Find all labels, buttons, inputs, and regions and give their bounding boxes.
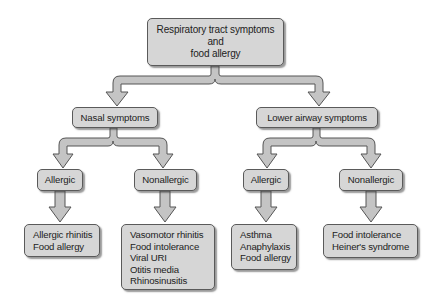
nasal-nonallergic-down-arrow bbox=[154, 191, 176, 222]
lower-airway-symptoms-node: Lower airway symptoms bbox=[256, 107, 378, 128]
nasal-symptoms-node: Nasal symptoms bbox=[72, 107, 158, 128]
root-line-2: and bbox=[207, 36, 223, 48]
leaf-item: Rhinosinusitis bbox=[130, 275, 214, 287]
lower-allergic-down-arrow bbox=[255, 191, 277, 222]
lower-airway-symptoms-label: Lower airway symptoms bbox=[267, 112, 367, 124]
leaf-item: Allergic rhinitis bbox=[33, 229, 99, 241]
leaf-item: Food intolerance bbox=[130, 241, 214, 253]
nasal-allergic-node: Allergic bbox=[37, 169, 83, 191]
leaf-item: Asthma bbox=[240, 229, 296, 241]
leaf-item: Vasomotor rhinitis bbox=[130, 229, 214, 241]
leaf-item: Viral URI bbox=[130, 252, 214, 264]
leaf-item: Otitis media bbox=[130, 264, 214, 276]
root-line-3: food allergy bbox=[191, 48, 241, 60]
root-split-arrow bbox=[106, 66, 330, 106]
leaf-item: Food allergy bbox=[240, 252, 296, 264]
nasal-symptoms-label: Nasal symptoms bbox=[81, 112, 150, 124]
nasal-split-arrow bbox=[53, 128, 173, 168]
leaf-item: Anaphylaxis bbox=[240, 241, 296, 253]
lower-nonallergic-leaf: Food intolerance Heiner's syndrome bbox=[323, 224, 418, 258]
nasal-allergic-leaf: Allergic rhinitis Food allergy bbox=[24, 224, 100, 257]
nasal-nonallergic-node: Nonallergic bbox=[134, 169, 197, 191]
lower-allergic-leaf: Asthma Anaphylaxis Food allergy bbox=[231, 224, 297, 270]
root-node: Respiratory tract symptoms and food alle… bbox=[147, 18, 284, 66]
nasal-allergic-label: Allergic bbox=[45, 174, 75, 186]
lower-nonallergic-label: Nonallergic bbox=[348, 174, 394, 186]
lower-split-arrow bbox=[257, 128, 381, 168]
leaf-item: Food allergy bbox=[33, 241, 99, 253]
lower-nonallergic-node: Nonallergic bbox=[339, 169, 403, 191]
respiratory-food-allergy-diagram: Respiratory tract symptoms and food alle… bbox=[0, 0, 434, 294]
nasal-nonallergic-leaf: Vasomotor rhinitis Food intolerance Vira… bbox=[121, 224, 215, 290]
leaf-item: Heiner's syndrome bbox=[332, 241, 417, 253]
lower-allergic-node: Allergic bbox=[243, 169, 289, 191]
nasal-allergic-down-arrow bbox=[49, 191, 71, 222]
nasal-nonallergic-label: Nonallergic bbox=[142, 174, 188, 186]
lower-allergic-label: Allergic bbox=[251, 174, 281, 186]
lower-nonallergic-down-arrow bbox=[360, 191, 382, 222]
leaf-item: Food intolerance bbox=[332, 229, 417, 241]
root-line-1: Respiratory tract symptoms bbox=[157, 24, 275, 36]
